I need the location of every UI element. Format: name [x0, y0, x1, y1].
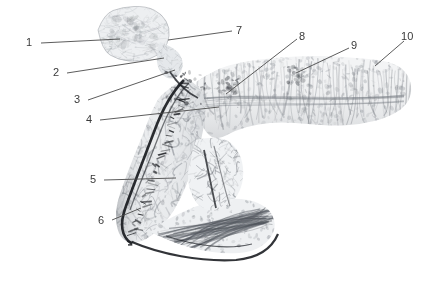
leader-line-6: [112, 208, 141, 220]
label-leader-line-overlay: [0, 0, 441, 290]
leader-line-1: [41, 39, 120, 43]
label-number-9: 9: [351, 40, 357, 51]
label-number-3: 3: [74, 94, 80, 105]
label-number-5: 5: [90, 174, 96, 185]
leader-line-2: [67, 58, 164, 73]
label-number-6: 6: [98, 215, 104, 226]
anatomical-figure: 12345678910: [0, 0, 441, 290]
leader-line-8: [226, 39, 297, 94]
label-number-10: 10: [401, 31, 414, 42]
label-number-7: 7: [236, 25, 242, 36]
leader-line-5: [104, 178, 176, 180]
leader-line-9: [296, 48, 349, 73]
label-number-4: 4: [86, 114, 92, 125]
leader-line-7: [168, 31, 232, 40]
leader-line-10: [375, 41, 404, 66]
label-number-2: 2: [53, 67, 59, 78]
leader-line-3: [88, 70, 175, 100]
label-number-1: 1: [26, 37, 32, 48]
leader-line-4: [100, 107, 219, 120]
label-number-8: 8: [299, 31, 305, 42]
